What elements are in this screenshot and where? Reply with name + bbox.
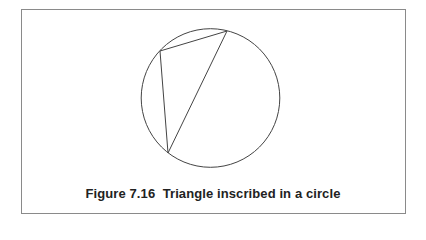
circle [141, 29, 280, 168]
inscribed-triangle [160, 31, 227, 153]
figure-caption: Figure 7.16 Triangle inscribed in a circ… [0, 186, 426, 201]
